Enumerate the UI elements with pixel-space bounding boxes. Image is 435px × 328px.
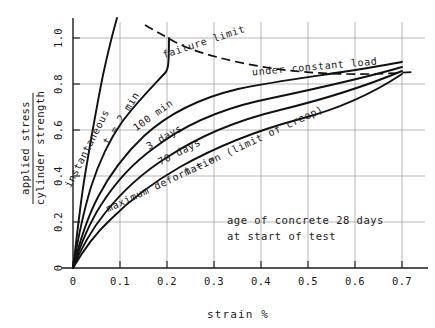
y-axis-denominator: cylinder strength [34,91,46,205]
x-tick-label-0.1: 0.1 [110,275,130,287]
x-tick-label-0.5: 0.5 [298,275,318,287]
x-tick-label-0.4: 0.4 [251,275,271,287]
curve-label-instantaneous: instantaneous [62,108,111,190]
x-tick-label-0.3: 0.3 [204,275,224,287]
note-block: age of concrete 28 days at start of test [227,214,384,242]
annotation-under-constant-load: under constant load [252,56,378,78]
x-tick-label-0: 0 [70,275,77,287]
x-tick-label-0.6: 0.6 [345,275,365,287]
note-line-1: age of concrete 28 days [227,214,384,226]
y-tick-label-0: 0 [52,265,64,272]
y-axis-title: applied stress cylinder strength [19,91,46,205]
note-line-2: at start of test [227,230,336,242]
chart-svg: 0 0.1 0.2 0.3 0.4 0.5 0.6 0.7 0 0.2 0.4 … [0,0,435,328]
x-tick-label-0.7: 0.7 [392,275,412,287]
creep-chart-figure: 0 0.1 0.2 0.3 0.4 0.5 0.6 0.7 0 0.2 0.4 … [0,0,435,328]
x-axis-title: strain % [207,308,269,321]
y-tick-label-0.8: 0.8 [52,74,64,94]
y-tick-label-0.2: 0.2 [52,212,64,232]
y-axis-numerator: applied stress [19,101,31,195]
x-tick-label-0.2: 0.2 [157,275,177,287]
y-tick-label-0.6: 0.6 [52,120,64,140]
y-tick-labels: 0 0.2 0.4 0.6 0.8 1.0 [52,28,64,271]
y-tick-label-1.0: 1.0 [52,28,64,48]
x-tick-labels: 0 0.1 0.2 0.3 0.4 0.5 0.6 0.7 [70,275,412,287]
